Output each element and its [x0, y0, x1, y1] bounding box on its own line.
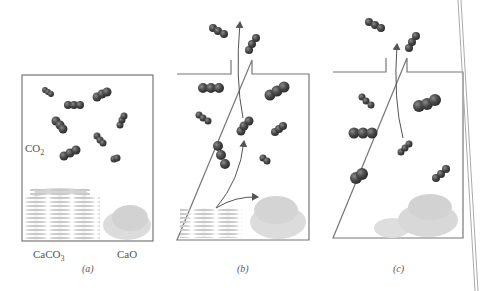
panel-b — [177, 22, 309, 240]
caco3-label: CaCO3 — [33, 248, 65, 263]
co2-molecules-b — [196, 24, 290, 169]
caption-c: (c) — [393, 263, 404, 274]
cao-label: CaO — [117, 248, 137, 260]
diagram-canvas — [0, 0, 482, 291]
panel-a — [22, 75, 153, 241]
cao-solid-a — [103, 205, 151, 240]
caco3-solid-b — [180, 208, 242, 238]
page-edge-lines — [458, 0, 478, 291]
panel-c — [333, 18, 463, 238]
cao-solid-b — [250, 196, 306, 239]
cao-solid-c — [374, 194, 458, 238]
co2-label: CO2 — [25, 142, 44, 157]
escape-arrow-c — [396, 44, 403, 138]
co2-molecules-a — [42, 87, 128, 163]
caption-a: (a) — [82, 263, 94, 274]
caco3-solid-a — [25, 188, 100, 240]
caption-b: (b) — [237, 263, 249, 274]
co2-molecules-c — [349, 18, 451, 184]
